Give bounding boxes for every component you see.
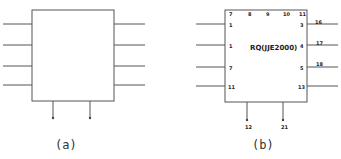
pin-label: 21	[281, 124, 288, 130]
pin-label: 1	[229, 22, 232, 28]
pin-label: 11	[299, 11, 306, 17]
pin-label: 3	[300, 22, 303, 28]
pin-label: 17	[316, 40, 323, 46]
pin-label: 1	[229, 43, 232, 49]
caption-b: (b)	[252, 138, 274, 152]
pin-label: 11	[228, 84, 235, 90]
pin-label: 5	[300, 65, 303, 71]
caption-a: (a)	[55, 138, 77, 152]
chip-b-labels: 7 8 9 10 11 1 1 7 11 3 4 5 13 16 17 18 1…	[0, 0, 341, 159]
pin-label: 8	[248, 11, 251, 17]
pin-label: 4	[300, 43, 303, 49]
pin-label: 12	[245, 124, 252, 130]
pin-label: 10	[283, 11, 290, 17]
chip-label: RQ(JJE2000)	[250, 44, 297, 52]
pin-label: 16	[315, 19, 322, 25]
pin-label: 18	[316, 61, 323, 67]
pin-label: 7	[229, 65, 232, 71]
pin-label: 7	[229, 11, 232, 17]
pin-label: 9	[266, 11, 269, 17]
pin-label: 13	[298, 84, 305, 90]
